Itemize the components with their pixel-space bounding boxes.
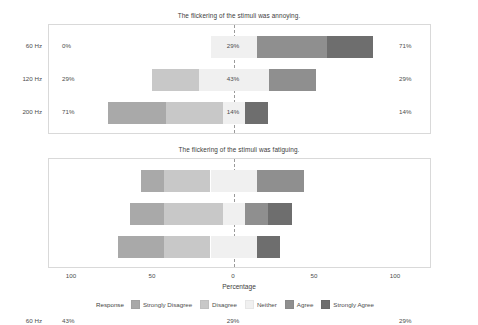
legend-label-strongly-agree: Strongly Agree <box>333 301 374 308</box>
bar-row <box>49 170 430 192</box>
legend-item-disagree[interactable]: Disagree <box>200 300 237 309</box>
bar-segment-disagree <box>152 69 199 91</box>
x-tick-100: 100 <box>56 272 86 279</box>
panel-title-annoying: The flickering of the stimuli was annoyi… <box>0 12 478 19</box>
disagree-percent-label: 0% <box>62 42 71 49</box>
legend-title: Response <box>96 301 124 308</box>
neither-percent-label: 14% <box>218 108 248 115</box>
bar-segment-disagree <box>164 203 222 225</box>
disagree-percent-label: 71% <box>62 108 74 115</box>
legend-item-strongly-agree[interactable]: Strongly Agree <box>321 300 374 309</box>
bar-segment-strongly-agree <box>327 36 372 58</box>
panel-annoying: The flickering of the stimuli was annoyi… <box>0 0 478 141</box>
y-axis-label-120-hz: 120 Hz <box>8 75 42 82</box>
bar-segment-agree <box>257 36 327 58</box>
legend-label-disagree: Disagree <box>212 301 237 308</box>
legend-label-agree: Agree <box>297 301 314 308</box>
y-axis-label-60-hz: 60 Hz <box>8 317 42 324</box>
bar-segment-neither <box>223 203 246 225</box>
x-tick-50: 50 <box>299 272 329 279</box>
legend-item-agree[interactable]: Agree <box>285 300 314 309</box>
bar-row <box>49 203 430 225</box>
bar-segment-strongly-disagree <box>118 236 163 258</box>
disagree-percent-label: 43% <box>62 317 74 324</box>
legend-swatch-disagree <box>200 300 209 309</box>
bar-segment-strongly-disagree <box>108 102 166 124</box>
likert-chart: The flickering of the stimuli was annoyi… <box>0 0 478 325</box>
disagree-percent-label: 29% <box>62 75 74 82</box>
bar-row <box>49 236 430 258</box>
y-axis-label-60-hz: 60 Hz <box>8 42 42 49</box>
x-axis-title: Percentage <box>0 283 478 290</box>
bar-segment-agree <box>257 170 304 192</box>
x-tick-50: 50 <box>137 272 167 279</box>
agree-percent-label: 29% <box>399 75 411 82</box>
legend-label-strongly-disagree: Strongly Disagree <box>143 301 192 308</box>
legend-swatch-strongly-disagree <box>131 300 140 309</box>
bar-segment-strongly-agree <box>245 102 268 124</box>
bar-segment-disagree <box>164 170 211 192</box>
bar-segment-strongly-disagree <box>130 203 164 225</box>
bar-segment-strongly-agree <box>257 236 280 258</box>
bar-segment-strongly-disagree <box>141 170 164 192</box>
bar-segment-strongly-agree <box>268 203 292 225</box>
bar-segment-neither <box>211 170 258 192</box>
bar-segment-disagree <box>164 236 211 258</box>
x-tick-100: 100 <box>380 272 410 279</box>
legend-swatch-agree <box>285 300 294 309</box>
legend: ResponseStrongly DisagreeDisagreeNeither… <box>0 300 478 309</box>
y-axis-label-200-hz: 200 Hz <box>8 108 42 115</box>
bar-segment-agree <box>245 203 268 225</box>
neither-percent-label: 43% <box>218 75 248 82</box>
agree-percent-label: 29% <box>399 317 411 324</box>
bar-segment-neither <box>211 236 258 258</box>
legend-item-neither[interactable]: Neither <box>245 300 277 309</box>
plot-area-fatiguing <box>48 158 431 268</box>
legend-item-strongly-disagree[interactable]: Strongly Disagree <box>131 300 192 309</box>
legend-swatch-strongly-agree <box>321 300 330 309</box>
neither-percent-label: 29% <box>218 42 248 49</box>
panel-fatiguing: The flickering of the stimuli was fatigu… <box>0 141 478 271</box>
agree-percent-label: 71% <box>399 42 411 49</box>
agree-percent-label: 14% <box>399 108 411 115</box>
bar-segment-agree <box>269 69 316 91</box>
legend-swatch-neither <box>245 300 254 309</box>
panel-title-fatiguing: The flickering of the stimuli was fatigu… <box>0 146 478 153</box>
x-tick-0: 0 <box>218 272 248 279</box>
neither-percent-label: 29% <box>218 317 248 324</box>
legend-label-neither: Neither <box>257 301 277 308</box>
bar-segment-disagree <box>166 102 223 124</box>
